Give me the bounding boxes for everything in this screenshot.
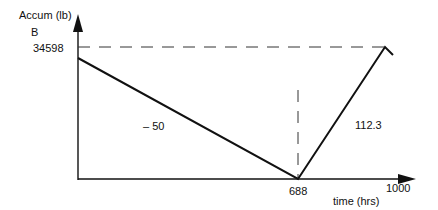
x-tick-688: 688 (289, 185, 307, 197)
x-axis-label: time (hrs) (333, 195, 379, 207)
y-axis-label: Accum (lb) (19, 9, 72, 21)
y-value-label: 34598 (33, 42, 64, 54)
point-b-label: B (31, 26, 38, 38)
slope-up-label: 112.3 (355, 119, 382, 131)
y-axis-arrowhead-icon (73, 14, 83, 32)
accumulation-diagram (0, 0, 438, 210)
slope-down-label: – 50 (143, 120, 164, 132)
accumulation-curve (78, 47, 393, 179)
x-tick-1000: 1000 (386, 182, 410, 194)
